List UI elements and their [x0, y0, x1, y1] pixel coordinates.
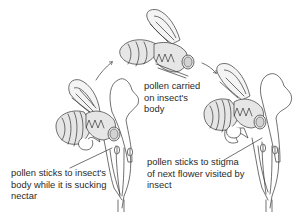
label-first-flower: pollen sticks to insect's body while it …: [11, 167, 106, 202]
left-bee: [56, 80, 120, 150]
arrow-to-next-flower: [202, 63, 216, 73]
label-next-flower: pollen sticks to stigma of next flower v…: [147, 156, 244, 191]
arrow-to-flight: [96, 62, 112, 80]
label-in-flight: pollen carried on insect's body: [144, 80, 200, 115]
leader-line-left: [70, 148, 112, 168]
right-bee: [204, 63, 266, 138]
pollination-diagram: pollen sticks to insect's body while it …: [0, 0, 298, 212]
flying-bee: [120, 9, 194, 78]
